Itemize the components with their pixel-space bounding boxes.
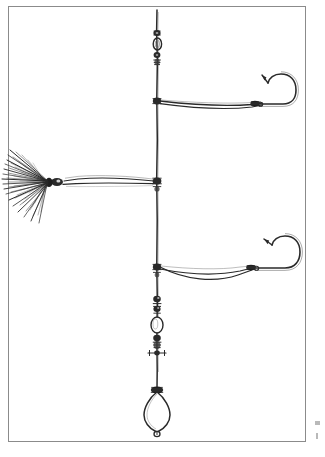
feather-dropper-knot: [152, 177, 162, 191]
link-clip-swivel: [148, 335, 166, 356]
fishing-rig-figure: Fishing rig line drawing Two-hook patern…: [0, 0, 325, 457]
top-swivel-assembly: [153, 30, 161, 65]
lead-weight: [144, 387, 170, 437]
upper-dropper-assembly: [152, 72, 298, 109]
lower-dropper-assembly: [152, 234, 302, 280]
upper-hook: [258, 72, 298, 107]
feather-skirt: [2, 150, 48, 223]
caption-area: [8, 443, 306, 455]
scan-edge-mark-lower: [316, 433, 318, 439]
feather-lure-assembly: [2, 150, 162, 223]
scan-edge-mark-upper: [315, 421, 320, 425]
oval-bead: [151, 317, 163, 333]
feather-lure-head: [45, 178, 63, 187]
illustration-page: Fishing rig line drawing Two-hook patern…: [0, 0, 325, 457]
lower-hook: [254, 234, 302, 271]
